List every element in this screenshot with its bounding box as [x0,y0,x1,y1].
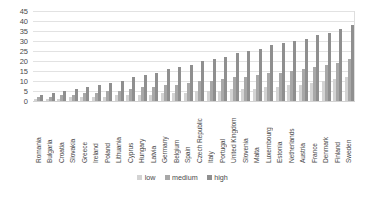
category-label-text: United Kingdom [230,103,238,163]
y-axis-tick-35: 35 [20,28,28,35]
category-label-text: Slovenia [242,103,250,163]
category-label: Slovakia [68,103,80,163]
bar-high [282,43,285,101]
bar-group [68,11,80,101]
category-label: Czech Republic [194,103,206,163]
legend-item-low[interactable]: low [137,174,155,181]
category-label-text: Netherlands [288,103,296,163]
bar-group [321,11,333,101]
category-label: Luxembourg [263,103,275,163]
category-label-text: Croatia [58,103,66,163]
bar-high [178,67,181,101]
bar-group [33,11,45,101]
category-label-text: Finland [334,103,342,163]
bar-high [236,53,239,101]
category-label-text: Sweden [345,103,353,163]
bars-layer [33,11,355,101]
legend-swatch-low-icon [137,175,142,180]
category-label-text: Ireland [92,103,100,163]
bar-high [144,75,147,101]
category-label-text: Luxembourg [265,103,273,163]
category-label: Italy [206,103,218,163]
bar-high [213,59,216,101]
category-label: Bulgaria [45,103,57,163]
category-label: Cyprus [125,103,137,163]
bar-high [121,81,124,101]
bar-group [91,11,103,101]
category-label: Austria [298,103,310,163]
category-label-text: Bulgaria [46,103,54,163]
bar-group [275,11,287,101]
bar-high [293,41,296,101]
category-label: Hungary [137,103,149,163]
category-label-text: Estonia [276,103,284,163]
category-label-text: Romania [35,103,43,163]
bar-high [155,73,158,101]
y-axis-tick-10: 10 [20,78,28,85]
y-axis-tick-25: 25 [20,48,28,55]
category-label-text: Cyprus [127,103,135,163]
category-label-text: Austria [299,103,307,163]
bar-high [86,87,89,101]
bar-group [344,11,356,101]
y-axis: 051015202530354045 [0,0,30,110]
legend-label: medium [172,174,198,181]
bar-group [148,11,160,101]
bar-group [102,11,114,101]
bar-high [270,45,273,101]
legend-label: high [214,174,228,181]
bar-high [247,51,250,101]
bar-group [56,11,68,101]
category-label-text: Spain [184,103,192,163]
bar-high [316,35,319,101]
bar-group [137,11,149,101]
bar-group [263,11,275,101]
category-label-text: Malta [253,103,261,163]
bar-group [229,11,241,101]
category-label-text: France [311,103,319,163]
bar-group [309,11,321,101]
bar-high [351,25,354,101]
bar-group [183,11,195,101]
category-label-text: Hungary [138,103,146,163]
plot-wrapper: 051015202530354045 RomaniaBulgariaCroati… [0,0,365,165]
bar-group [206,11,218,101]
category-label: Belgium [171,103,183,163]
category-label-text: Lithuania [115,103,123,163]
bar-group [160,11,172,101]
category-label: United Kingdom [229,103,241,163]
bar-high [305,39,308,101]
category-label: Romania [33,103,45,163]
category-label-text: Poland [104,103,112,163]
bar-group [286,11,298,101]
bar-high [98,85,101,101]
y-axis-tick-15: 15 [20,68,28,75]
category-label: Malta [252,103,264,163]
legend-item-high[interactable]: high [207,174,228,181]
category-label: Finland [332,103,344,163]
category-label: Denmark [321,103,333,163]
legend-item-medium[interactable]: medium [165,174,198,181]
category-label-text: Greece [81,103,89,163]
category-label: Spain [183,103,195,163]
category-label-text: Portugal [219,103,227,163]
category-label-text: Germany [161,103,169,163]
category-label: Netherlands [286,103,298,163]
category-label: Sweden [344,103,356,163]
y-axis-tick-5: 5 [24,88,28,95]
bar-high [63,91,66,101]
bar-high [167,69,170,101]
bar-group [217,11,229,101]
chart-legend: lowmediumhigh [0,174,365,181]
category-label: Greece [79,103,91,163]
category-label: France [309,103,321,163]
y-axis-tick-45: 45 [20,8,28,15]
category-label-text: Denmark [322,103,330,163]
category-labels: RomaniaBulgariaCroatiaSlovakiaGreeceIrel… [33,103,355,163]
bar-group [45,11,57,101]
bar-high [224,57,227,101]
legend-swatch-high-icon [207,175,212,180]
y-axis-tick-0: 0 [24,98,28,105]
legend-label: low [145,174,156,181]
bar-chart: 051015202530354045 RomaniaBulgariaCroati… [0,0,365,200]
